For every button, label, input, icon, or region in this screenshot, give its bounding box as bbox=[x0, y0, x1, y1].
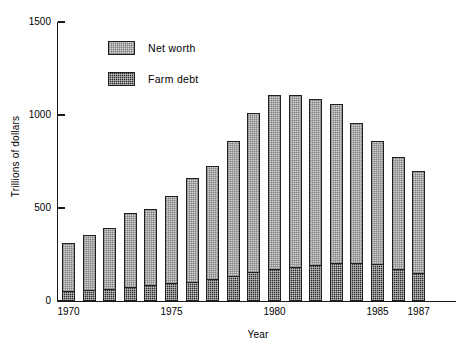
bar-segment-farm-debt bbox=[247, 272, 260, 301]
farm-debt-net-worth-bar-chart: Trillions of dollars 050010001500 197019… bbox=[0, 0, 469, 352]
bar-group bbox=[371, 141, 384, 301]
legend: Net worth Farm debt bbox=[108, 38, 199, 100]
bar-segment-net-worth bbox=[124, 213, 137, 289]
bar-segment-net-worth bbox=[83, 235, 96, 291]
bar-segment-net-worth bbox=[350, 123, 363, 264]
bar-segment-net-worth bbox=[330, 104, 343, 264]
legend-item-net-worth: Net worth bbox=[108, 38, 199, 57]
bar-segment-farm-debt bbox=[309, 265, 322, 301]
bar-segment-farm-debt bbox=[103, 289, 116, 301]
bar-segment-farm-debt bbox=[62, 291, 75, 301]
bar-segment-farm-debt bbox=[330, 263, 343, 301]
x-tick-label: 1970 bbox=[49, 306, 89, 318]
bar-segment-farm-debt bbox=[289, 267, 302, 301]
bar-group bbox=[309, 99, 322, 301]
bar-segment-net-worth bbox=[412, 171, 425, 274]
bar-segment-farm-debt bbox=[371, 264, 384, 301]
x-tick-label: 1985 bbox=[358, 306, 398, 318]
bar-group bbox=[330, 104, 343, 301]
bar-segment-net-worth bbox=[227, 141, 240, 277]
bar-segment-farm-debt bbox=[227, 276, 240, 301]
bar-segment-net-worth bbox=[144, 209, 157, 286]
y-tick-label: 1000 bbox=[7, 110, 51, 120]
y-tick-label-wrap: 1000 bbox=[0, 110, 51, 120]
bar-segment-net-worth bbox=[392, 157, 405, 271]
bar-segment-farm-debt bbox=[268, 269, 281, 301]
bar-segment-net-worth bbox=[309, 99, 322, 266]
bar-group bbox=[186, 178, 199, 301]
y-tick-label: 1500 bbox=[7, 17, 51, 27]
bar-group bbox=[268, 95, 281, 301]
x-tick-label: 1975 bbox=[152, 306, 192, 318]
bar-segment-net-worth bbox=[371, 141, 384, 265]
bar-segment-farm-debt bbox=[412, 273, 425, 301]
bar-segment-net-worth bbox=[165, 196, 178, 285]
net-worth-swatch-icon bbox=[108, 41, 135, 55]
bar-segment-farm-debt bbox=[350, 263, 363, 301]
bar-segment-net-worth bbox=[268, 95, 281, 271]
bar-segment-net-worth bbox=[206, 166, 219, 280]
bar-group bbox=[227, 141, 240, 301]
x-tick-label: 1987 bbox=[399, 306, 439, 318]
bar-segment-farm-debt bbox=[165, 283, 178, 301]
legend-label-net-worth: Net worth bbox=[148, 42, 196, 54]
bar-group bbox=[165, 196, 178, 301]
bar-group bbox=[392, 157, 405, 301]
bar-segment-farm-debt bbox=[392, 269, 405, 301]
bar-segment-net-worth bbox=[62, 243, 75, 292]
y-axis-label: Trillions of dollars bbox=[10, 6, 24, 307]
x-axis-label: Year bbox=[58, 329, 458, 340]
bar-segment-net-worth bbox=[289, 95, 302, 268]
x-tick-label: 1980 bbox=[255, 306, 295, 318]
bar-segment-farm-debt bbox=[83, 290, 96, 301]
bar-group bbox=[247, 113, 260, 301]
bar-group bbox=[62, 243, 75, 301]
y-tick-label: 500 bbox=[7, 203, 51, 213]
y-tick-label-wrap: 1500 bbox=[0, 17, 51, 27]
bar-segment-net-worth bbox=[103, 228, 116, 290]
bar-group bbox=[206, 166, 219, 301]
y-tick-label-wrap: 0 bbox=[0, 296, 51, 306]
bar-group bbox=[289, 95, 302, 301]
y-tick-label-wrap: 500 bbox=[0, 203, 51, 213]
farm-debt-swatch-icon bbox=[108, 72, 135, 86]
x-axis-line bbox=[57, 301, 456, 302]
y-tick-label: 0 bbox=[7, 296, 51, 306]
bar-segment-farm-debt bbox=[186, 281, 199, 301]
legend-item-farm-debt: Farm debt bbox=[108, 69, 199, 88]
bar-group bbox=[103, 228, 116, 301]
bar-segment-farm-debt bbox=[206, 279, 219, 301]
bar-group bbox=[83, 235, 96, 301]
bar-segment-net-worth bbox=[247, 113, 260, 273]
bar-group bbox=[350, 123, 363, 301]
bar-segment-farm-debt bbox=[124, 287, 137, 301]
bar-group bbox=[124, 213, 137, 301]
bar-group bbox=[412, 171, 425, 301]
legend-label-farm-debt: Farm debt bbox=[148, 73, 199, 85]
bar-segment-net-worth bbox=[186, 178, 199, 282]
bar-group bbox=[144, 209, 157, 301]
bar-segment-farm-debt bbox=[144, 285, 157, 301]
